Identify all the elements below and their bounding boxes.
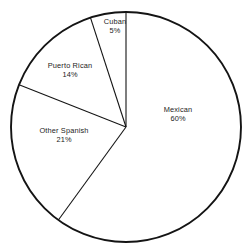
pie-chart: Mexican 60% Other Spanish 21% Puerto Ric… <box>0 0 247 251</box>
pie-chart-graphic <box>0 0 247 251</box>
